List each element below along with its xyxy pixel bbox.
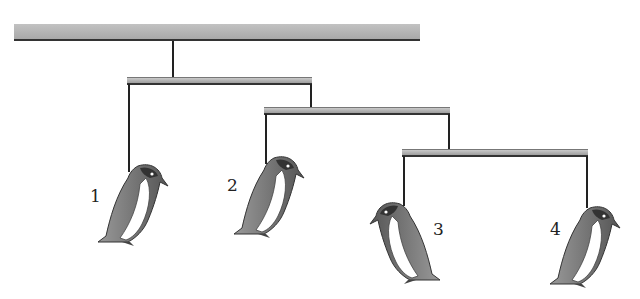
penguin-3: [366, 200, 444, 286]
string-rod3-penguin4: [586, 156, 588, 208]
penguin-4: [546, 204, 624, 290]
penguin-2: [230, 154, 308, 240]
string-rod2-rod3: [448, 114, 450, 149]
penguin-1: [94, 162, 172, 248]
string-rod3-penguin3: [403, 156, 405, 206]
label-4: 4: [550, 219, 561, 239]
label-3: 3: [433, 219, 444, 239]
ceiling-bar: [14, 24, 420, 41]
string-ceiling-to-rod1: [172, 41, 174, 77]
string-rod1-rod2: [310, 84, 312, 107]
label-2: 2: [227, 175, 238, 195]
string-rod1-penguin1: [128, 84, 130, 172]
label-1: 1: [90, 186, 101, 206]
rod-3: [402, 149, 588, 157]
rod-2: [264, 107, 450, 115]
rod-1: [127, 77, 312, 85]
